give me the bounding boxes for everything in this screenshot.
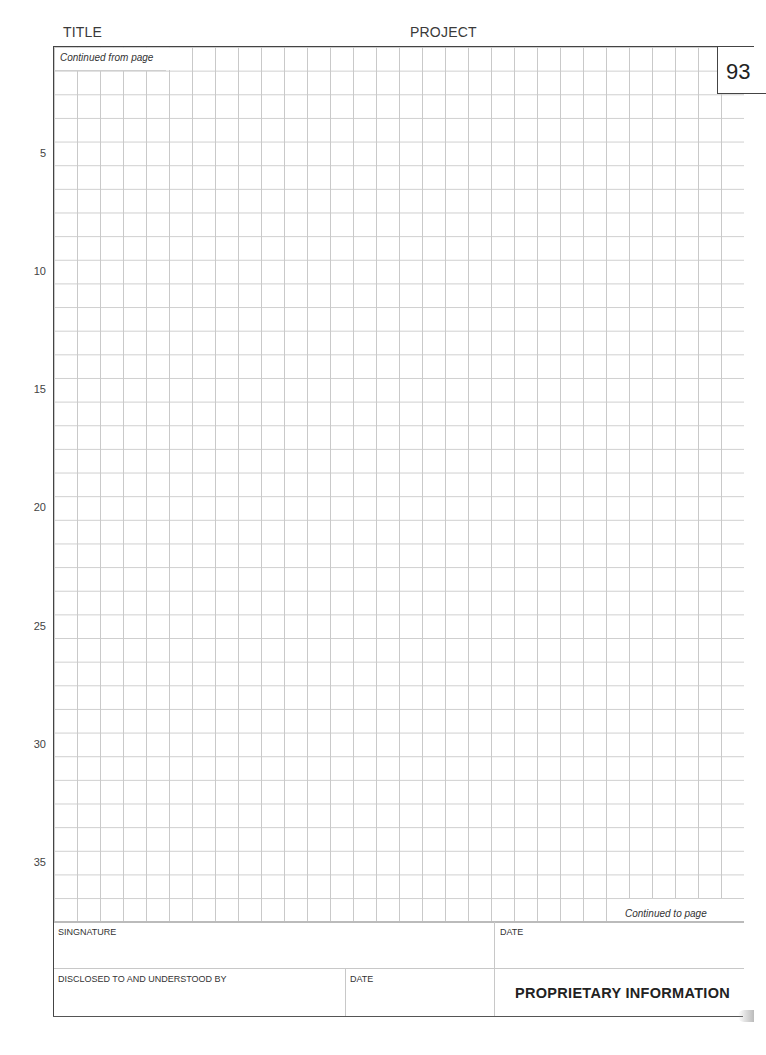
title-label: TITLE (63, 24, 102, 40)
signature-top-divider (54, 922, 744, 923)
continued-from-field[interactable]: Continued from page (55, 48, 170, 70)
row-number-label: 15 (0, 383, 46, 395)
frame-bottom-border (53, 1016, 743, 1017)
row-number-label: 30 (0, 738, 46, 750)
continued-from-underline (54, 70, 166, 71)
date-column-divider (494, 922, 495, 1016)
graph-grid (54, 47, 744, 922)
signature-row-divider (54, 968, 744, 969)
row-number-label: 35 (0, 856, 46, 868)
row-number-label: 20 (0, 501, 46, 513)
disclosed-label: DISCLOSED TO AND UNDERSTOOD BY (58, 974, 227, 984)
continued-to-field[interactable]: Continued to page (620, 899, 749, 921)
page-number: 93 (726, 59, 750, 84)
signature-block: SINGNATURE DATE DISCLOSED TO AND UNDERST… (54, 922, 744, 1016)
signature-label: SINGNATURE (58, 927, 116, 937)
frame-left-border (53, 46, 54, 1017)
frame-top-border (53, 46, 754, 47)
disclosed-date-label: DATE (350, 974, 373, 984)
page-edge-shadow (738, 1010, 754, 1022)
signature-date-label: DATE (500, 927, 523, 937)
disclosed-date-divider (345, 968, 346, 1016)
proprietary-information-label: PROPRIETARY INFORMATION (515, 985, 730, 1001)
page-number-box: 93 (717, 47, 766, 94)
row-number-label: 10 (0, 265, 46, 277)
row-number-label: 25 (0, 620, 46, 632)
project-label: PROJECT (410, 24, 477, 40)
row-number-label: 5 (0, 147, 46, 159)
